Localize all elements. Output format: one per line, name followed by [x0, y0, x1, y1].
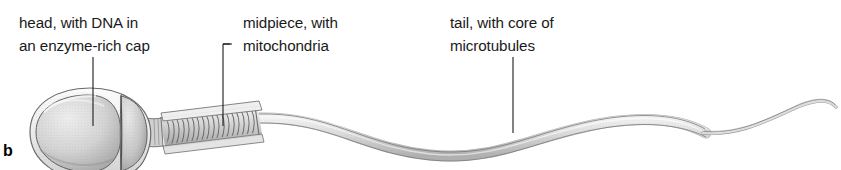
callout-midpiece-line2: mitochondria	[243, 37, 329, 54]
tail-shape	[256, 114, 706, 161]
callout-tail: tail, with core of microtubules	[450, 12, 554, 57]
callout-tail-line2: microtubules	[450, 37, 535, 54]
callout-tail-line1: tail, with core of	[450, 14, 554, 31]
midpiece-shape	[160, 101, 264, 154]
callout-head-line1: head, with DNA in	[19, 14, 138, 31]
sperm-cell-figure: head, with DNA in an enzyme-rich cap mid…	[0, 0, 841, 170]
callout-midpiece-line1: midpiece, with	[243, 14, 338, 31]
end-piece-shape	[703, 99, 836, 133]
callout-head: head, with DNA in an enzyme-rich cap	[19, 12, 150, 57]
callout-midpiece: midpiece, with mitochondria	[243, 12, 338, 57]
panel-label: b	[3, 142, 13, 160]
callout-head-line2: an enzyme-rich cap	[19, 37, 150, 54]
